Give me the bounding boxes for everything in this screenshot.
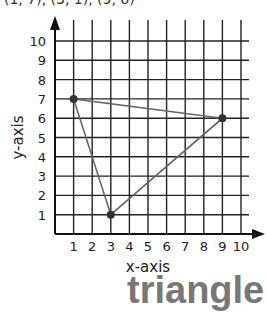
coordinate-grid-chart: 1234567891012345678910x-axisy-axis	[0, 0, 266, 312]
y-tick-label: 7	[38, 92, 46, 107]
data-point	[70, 95, 78, 103]
y-tick-label: 8	[38, 73, 46, 88]
x-tick-label: 9	[218, 239, 226, 254]
y-tick-label: 9	[38, 53, 46, 68]
y-tick-label: 3	[38, 169, 46, 184]
data-point	[107, 211, 115, 219]
data-point	[218, 114, 226, 122]
x-tick-label: 4	[125, 239, 133, 254]
x-tick-label: 8	[200, 239, 208, 254]
y-tick-label: 10	[29, 34, 46, 49]
x-tick-label: 2	[88, 239, 96, 254]
x-tick-label: 3	[107, 239, 115, 254]
x-tick-label: 5	[144, 239, 152, 254]
x-tick-label: 1	[69, 239, 77, 254]
y-tick-label: 2	[38, 188, 46, 203]
answer-label: triangle	[127, 270, 264, 310]
x-axis-arrow-icon	[252, 229, 265, 239]
y-tick-label: 1	[38, 208, 46, 223]
y-tick-label: 4	[38, 150, 46, 165]
y-tick-label: 6	[38, 111, 46, 126]
y-axis-arrow-icon	[50, 16, 60, 30]
y-axis-label: y-axis	[9, 115, 27, 159]
y-tick-label: 5	[38, 131, 46, 146]
x-tick-label: 10	[233, 239, 250, 254]
x-tick-label: 7	[181, 239, 189, 254]
x-tick-label: 6	[162, 239, 170, 254]
